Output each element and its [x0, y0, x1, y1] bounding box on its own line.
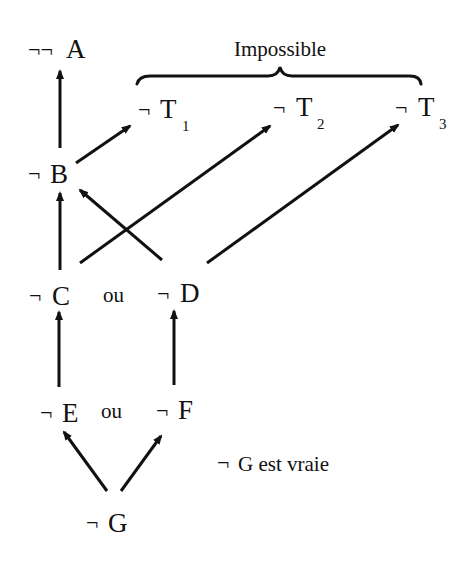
node-not-b: ¬ B [28, 159, 68, 189]
svg-text:1: 1 [182, 118, 190, 134]
svg-text:¬: ¬ [40, 400, 52, 425]
svg-text:G est vraie: G est vraie [238, 452, 329, 476]
svg-text:¬: ¬ [156, 398, 168, 423]
edge-g-to-e [64, 432, 107, 491]
edge-g-to-f [121, 436, 161, 491]
node-not-c: ¬ C [29, 281, 70, 311]
svg-text:¬: ¬ [29, 283, 41, 308]
or-connector-c-d: ou [103, 283, 125, 307]
svg-text:E: E [62, 398, 79, 428]
note-g-is-true: ¬ G est vraie [217, 450, 329, 476]
svg-text:¬: ¬ [157, 281, 169, 306]
svg-text:¬: ¬ [86, 510, 98, 535]
svg-text:¬: ¬ [138, 97, 150, 122]
svg-text:¬¬: ¬¬ [28, 37, 53, 62]
svg-text:2: 2 [317, 116, 325, 132]
node-not-f: ¬ F [156, 395, 193, 425]
svg-text:3: 3 [439, 116, 447, 132]
svg-text:¬: ¬ [217, 450, 229, 475]
svg-text:¬: ¬ [273, 95, 285, 120]
svg-text:C: C [52, 281, 70, 311]
edge-d-to-t3 [207, 125, 398, 263]
node-not-e: ¬ E [40, 398, 79, 428]
node-not-g: ¬ G [86, 508, 128, 538]
svg-text:T: T [418, 92, 435, 122]
svg-text:G: G [108, 508, 128, 538]
svg-text:B: B [50, 159, 68, 189]
svg-text:¬: ¬ [28, 161, 40, 186]
impossible-label: Impossible [234, 37, 326, 61]
implication-diagram: Impossible ¬¬ A ¬ T 1 ¬ T 2 ¬ T 3 ¬ B ¬ … [0, 0, 463, 561]
edge-d-to-b [80, 190, 162, 260]
edge-b-to-t1 [76, 126, 130, 163]
svg-text:T: T [296, 92, 313, 122]
impossible-brace [137, 67, 421, 84]
svg-text:D: D [180, 278, 200, 308]
node-not-t3: ¬ T 3 [395, 92, 447, 132]
edge-c-to-t2 [80, 126, 270, 263]
node-not-d: ¬ D [157, 278, 200, 308]
svg-text:A: A [66, 34, 86, 64]
or-connector-e-f: ou [101, 399, 123, 423]
node-not-not-a: ¬¬ A [28, 34, 86, 64]
svg-text:T: T [160, 94, 177, 124]
node-not-t2: ¬ T 2 [273, 92, 325, 132]
svg-text:F: F [178, 395, 193, 425]
node-not-t1: ¬ T 1 [138, 94, 190, 134]
svg-text:¬: ¬ [395, 95, 407, 120]
